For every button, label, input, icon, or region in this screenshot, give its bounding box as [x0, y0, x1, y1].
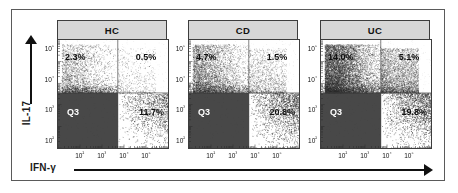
- y-tick-labels-uc: 10⁵10⁴10³10²: [303, 39, 317, 147]
- x-tick-label: 10³: [360, 152, 369, 159]
- y-tick-label: 10⁴: [45, 76, 54, 83]
- quadrant-label-lower-right-hc: 11.7%: [139, 107, 164, 117]
- quadrant-label-upper-left-hc: 2.3%: [65, 52, 86, 62]
- x-tick-label: 10⁵: [141, 152, 150, 159]
- y-tick-label: 10²: [176, 137, 185, 144]
- figure-root: IL-17 IFN-γ HC2.3%0.5%Q311.7%10⁵10⁴10³10…: [0, 0, 458, 193]
- x-tick-label: 10²: [338, 152, 347, 159]
- quadrant-label-upper-right-uc: 5.1%: [399, 52, 420, 62]
- panel-title: UC: [368, 25, 383, 36]
- y-axis-arrow-head-icon: [25, 35, 37, 44]
- quadrant-label-q3-uc: Q3: [330, 107, 342, 117]
- y-tick-label: 10⁵: [45, 45, 54, 52]
- plot-area-hc: 2.3%0.5%Q311.7%: [57, 39, 169, 149]
- x-tick-label: 10⁴: [382, 152, 391, 159]
- y-axis-label-group: IL-17: [16, 42, 42, 150]
- plot-area-uc: 14.0%5.1%Q319.8%: [320, 39, 432, 149]
- quadrant-label-lower-right-uc: 19.8%: [401, 107, 427, 117]
- panel-header-hc: HC: [57, 20, 167, 40]
- x-tick-label: 10³: [228, 152, 237, 159]
- y-tick-label: 10⁴: [308, 76, 317, 83]
- quadrant-label-q3-hc: Q3: [67, 107, 79, 117]
- y-tick-label: 10³: [176, 106, 185, 113]
- quadrant-label-upper-left-cd: 4.7%: [196, 52, 217, 62]
- panel-title: CD: [236, 25, 251, 36]
- quadrant-label-upper-left-uc: 14.0%: [328, 52, 354, 62]
- x-axis-label-group: IFN-γ: [30, 160, 430, 180]
- y-tick-label: 10³: [45, 106, 54, 113]
- y-tick-label: 10⁵: [176, 45, 185, 52]
- quadrant-label-upper-right-hc: 0.5%: [136, 52, 157, 62]
- quadrant-label-lower-right-cd: 20.8%: [269, 107, 295, 117]
- y-tick-labels-cd: 10⁵10⁴10³10²: [171, 39, 185, 147]
- x-tick-label: 10²: [206, 152, 215, 159]
- panel-header-cd: CD: [188, 20, 298, 40]
- x-tick-label: 10⁴: [250, 152, 259, 159]
- y-axis-label: IL-17: [20, 89, 34, 137]
- x-tick-label: 10⁵: [404, 152, 413, 159]
- x-tick-label: 10⁴: [119, 152, 128, 159]
- x-axis-arrow-shaft: [74, 169, 426, 171]
- y-tick-label: 10⁴: [176, 76, 185, 83]
- panel-header-uc: UC: [320, 20, 430, 40]
- y-tick-label: 10²: [45, 137, 54, 144]
- x-tick-label: 10⁵: [272, 152, 281, 159]
- y-tick-label: 10²: [308, 137, 317, 144]
- y-tick-labels-hc: 10⁵10⁴10³10²: [40, 39, 54, 147]
- x-tick-label: 10²: [75, 152, 84, 159]
- panel-title: HC: [105, 25, 120, 36]
- y-tick-label: 10⁵: [308, 45, 317, 52]
- x-tick-label: 10³: [97, 152, 106, 159]
- x-axis-label: IFN-γ: [30, 162, 56, 173]
- y-tick-label: 10³: [308, 106, 317, 113]
- quadrant-label-q3-cd: Q3: [198, 107, 210, 117]
- x-axis-arrow-head-icon: [424, 164, 433, 176]
- quadrant-label-upper-right-cd: 1.5%: [267, 52, 288, 62]
- plot-area-cd: 4.7%1.5%Q320.8%: [188, 39, 300, 149]
